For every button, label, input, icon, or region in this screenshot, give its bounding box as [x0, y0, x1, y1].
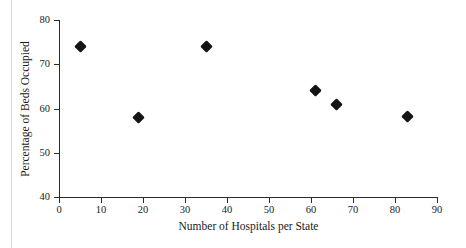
y-tick-label: 50	[30, 147, 50, 158]
y-tick-label: 70	[30, 58, 50, 69]
y-tick-label: 60	[30, 103, 50, 114]
y-tick-label: 40	[30, 191, 50, 202]
x-tick-mark	[143, 198, 144, 203]
x-tick-label: 50	[254, 204, 284, 215]
x-tick-label: 80	[380, 204, 410, 215]
x-tick-label: 70	[338, 204, 368, 215]
x-tick-mark	[59, 198, 60, 203]
x-tick-label: 0	[44, 204, 74, 215]
x-tick-mark	[353, 198, 354, 203]
x-tick-label: 10	[86, 204, 116, 215]
x-tick-label: 20	[128, 204, 158, 215]
x-tick-label: 40	[212, 204, 242, 215]
y-axis-title: Percentage of Beds Occupied	[19, 19, 31, 199]
plot-area	[59, 20, 437, 197]
x-tick-mark	[437, 198, 438, 203]
x-tick-label: 90	[422, 204, 452, 215]
x-tick-mark	[227, 198, 228, 203]
x-tick-label: 60	[296, 204, 326, 215]
x-tick-mark	[395, 198, 396, 203]
x-axis-line	[59, 197, 438, 198]
x-tick-label: 30	[170, 204, 200, 215]
scatter-plot-figure: 0102030405060708090 4050607080 Number of…	[0, 0, 466, 248]
x-tick-mark	[269, 198, 270, 203]
y-tick-label: 80	[30, 14, 50, 25]
x-tick-mark	[311, 198, 312, 203]
x-tick-mark	[101, 198, 102, 203]
y-tick-mark	[54, 197, 59, 198]
x-tick-mark	[185, 198, 186, 203]
x-axis-title: Number of Hospitals per State	[59, 220, 438, 232]
